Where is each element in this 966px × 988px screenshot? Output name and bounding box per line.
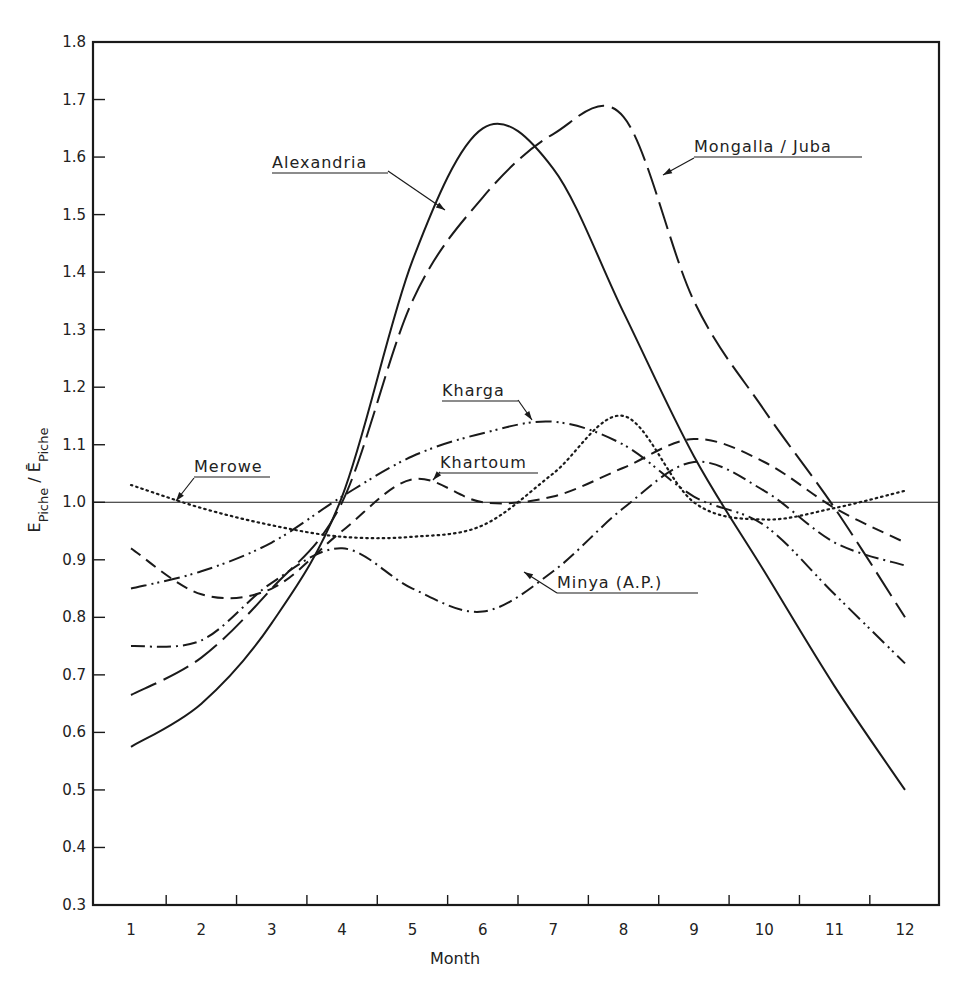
x-axis-title: Month xyxy=(430,949,480,968)
x-tick-label: 5 xyxy=(408,921,418,939)
annotation-minya-a-p: Minya (A.P.) xyxy=(524,572,698,593)
y-tick-label: 0.9 xyxy=(62,551,86,569)
annotation-alexandria: Alexandria xyxy=(272,153,445,210)
x-tick-label: 7 xyxy=(548,921,558,939)
x-tick-label: 3 xyxy=(267,921,277,939)
y-tick-label: 1.7 xyxy=(62,91,86,109)
arrow-icon xyxy=(524,411,532,420)
y-tick-label: 1.8 xyxy=(62,33,86,51)
evaporation-ratio-chart: 0.30.40.50.60.70.80.91.01.11.21.31.41.51… xyxy=(0,0,966,988)
x-tick-label: 9 xyxy=(689,921,699,939)
arrow-icon xyxy=(524,572,533,579)
svg-text:Kharga: Kharga xyxy=(442,381,505,400)
y-tick-label: 1.6 xyxy=(62,148,86,166)
y-tick-label: 0.8 xyxy=(62,608,86,626)
y-tick-label: 0.6 xyxy=(62,723,86,741)
x-tick-label: 4 xyxy=(337,921,347,939)
arrow-icon xyxy=(436,202,445,210)
x-tick-label: 12 xyxy=(895,921,914,939)
y-axis-title: EPiche / ĒPiche xyxy=(25,428,51,533)
y-tick-label: 0.7 xyxy=(62,666,86,684)
y-tick-label: 1.4 xyxy=(62,263,86,281)
x-tick-label: 1 xyxy=(126,921,136,939)
y-tick-label: 1.1 xyxy=(62,436,86,454)
y-tick-label: 1.2 xyxy=(62,378,86,396)
annotation-kharga: Kharga xyxy=(442,381,532,420)
x-tick-label: 8 xyxy=(619,921,629,939)
series-minya-a-p xyxy=(131,462,905,647)
x-tick-label: 6 xyxy=(478,921,488,939)
x-tick-label: 11 xyxy=(825,921,844,939)
y-tick-label: 0.3 xyxy=(62,896,86,914)
annotation-merowe: Merowe xyxy=(176,457,270,501)
svg-text:Mongalla / Juba: Mongalla / Juba xyxy=(694,137,832,156)
x-tick-label: 2 xyxy=(197,921,207,939)
svg-text:Alexandria: Alexandria xyxy=(272,153,367,172)
arrow-icon xyxy=(176,492,184,501)
annotation-layer: AlexandriaMongalla / JubaKhargaKhartoumM… xyxy=(176,137,862,593)
annotation-khartoum: Khartoum xyxy=(433,453,538,480)
y-tick-label: 1.3 xyxy=(62,321,86,339)
x-axis: 123456789101112 xyxy=(126,895,914,939)
x-tick-label: 10 xyxy=(755,921,774,939)
annotation-mongalla-juba: Mongalla / Juba xyxy=(663,137,862,175)
y-axis: 0.30.40.50.60.70.80.91.01.11.21.31.41.51… xyxy=(62,33,105,914)
svg-text:Minya (A.P.): Minya (A.P.) xyxy=(557,573,662,592)
y-tick-label: 0.5 xyxy=(62,781,86,799)
y-tick-label: 1.5 xyxy=(62,206,86,224)
y-tick-label: 1.0 xyxy=(62,493,86,511)
svg-text:Merowe: Merowe xyxy=(194,457,263,476)
series-layer xyxy=(131,106,905,790)
arrow-icon xyxy=(663,168,672,175)
y-tick-label: 0.4 xyxy=(62,838,86,856)
svg-text:Khartoum: Khartoum xyxy=(440,453,527,472)
